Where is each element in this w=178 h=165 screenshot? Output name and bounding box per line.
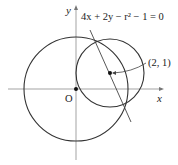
chord-line: [90, 30, 131, 122]
point-label: (2, 1): [148, 57, 171, 69]
x-axis-arrow-icon: [159, 87, 164, 91]
origin-dot: [74, 87, 78, 91]
circle-diagram: y 4x + 2y − r² − 1 = 0 (2, 1) O x: [0, 0, 178, 165]
leader-arrowhead-icon: [112, 71, 116, 75]
point-leader-arrow: [113, 63, 146, 73]
y-axis-arrow-icon: [74, 5, 78, 10]
y-axis-label: y: [65, 4, 71, 16]
center-point-dot: [108, 71, 112, 75]
origin-label: O: [65, 93, 73, 104]
equation-label: 4x + 2y − r² − 1 = 0: [81, 11, 164, 22]
x-axis-label: x: [156, 92, 162, 104]
